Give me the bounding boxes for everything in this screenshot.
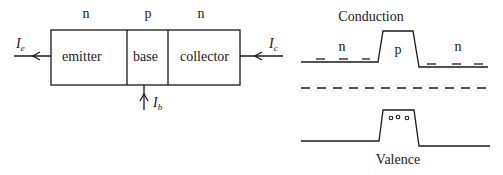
collector-type-label: n xyxy=(198,6,205,21)
emitter-current-label: Ie xyxy=(15,36,25,53)
holes xyxy=(389,115,409,120)
transistor-labels: n p n emitter base collector Ie Ic Ib xyxy=(15,6,278,112)
valence-band-edge xyxy=(301,110,490,146)
base-current-label: Ib xyxy=(152,95,163,112)
npn-transistor-diagram: n p n emitter base collector Ie Ic Ib xyxy=(0,0,503,175)
collector-current-label: Ic xyxy=(268,36,278,53)
emitter-label: emitter xyxy=(62,49,102,64)
p-band-label: p xyxy=(395,42,402,57)
valence-label: Valence xyxy=(376,152,420,167)
base-type-label: p xyxy=(145,6,152,21)
left-n-band-label: n xyxy=(339,39,346,54)
base-label: base xyxy=(133,49,158,64)
transistor-block xyxy=(14,30,283,110)
emitter-type-label: n xyxy=(83,6,90,21)
conduction-label: Conduction xyxy=(338,9,403,24)
right-n-band-label: n xyxy=(455,39,462,54)
collector-label: collector xyxy=(180,49,229,64)
